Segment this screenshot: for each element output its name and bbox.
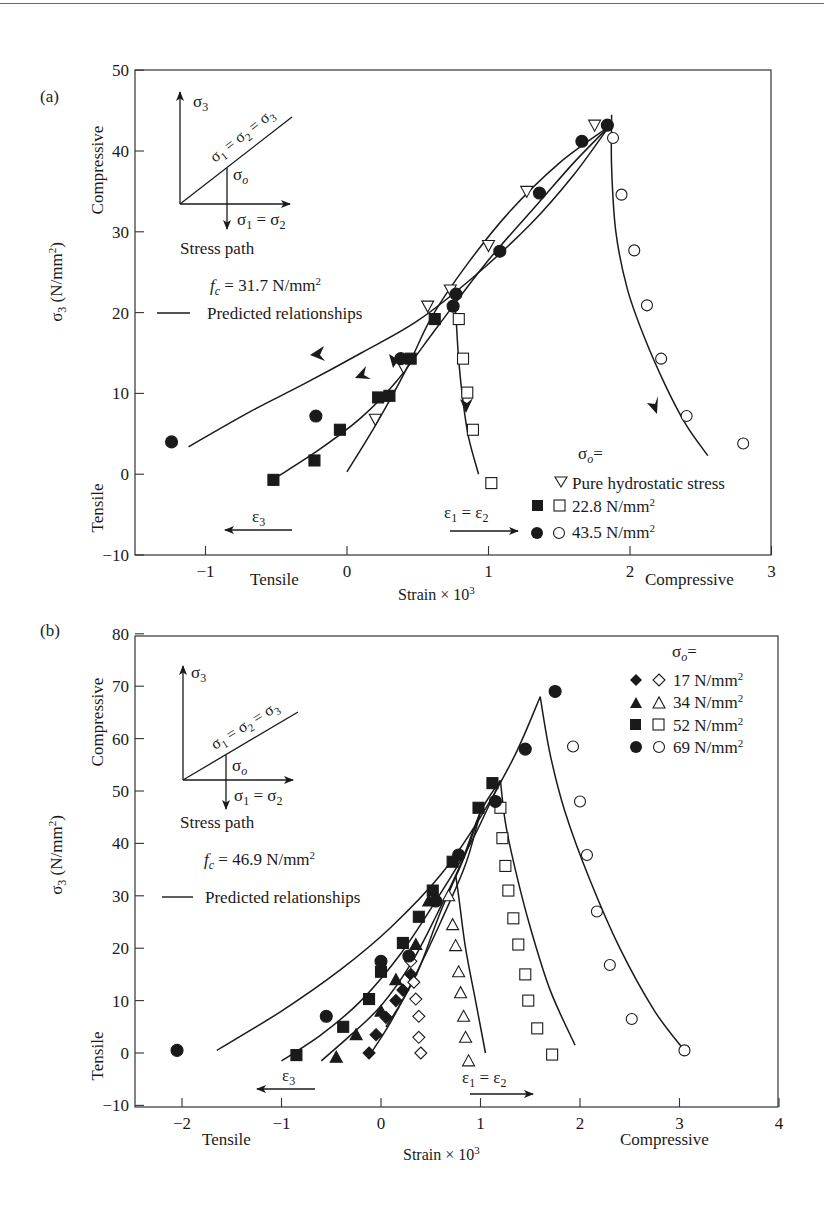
square-filled-marker	[413, 911, 424, 922]
triangle-down-open-marker	[483, 241, 495, 252]
legend-a-item-hydrostatic: Pure hydrostatic stress	[572, 474, 725, 493]
circle-open-marker	[575, 796, 586, 807]
inset-b-sigma-o: σo	[232, 756, 247, 778]
panel-a-x-axis-title: Strain × 103	[398, 584, 475, 603]
predicted-curve	[347, 127, 609, 472]
circle-open-marker	[641, 300, 652, 311]
legend-a-item-43-5: 43.5 N/mm2	[572, 522, 655, 542]
y-tick-label: 50	[112, 782, 129, 801]
y-tick-label: −10	[102, 1096, 129, 1115]
diamond-open-marker	[413, 1010, 425, 1022]
diamond-open-marker	[415, 1047, 427, 1059]
legend-b-square-filled-icon	[630, 719, 641, 730]
panel-a-x-tensile-label: Tensile	[250, 570, 299, 589]
legend-a-triangle-down-open-icon	[555, 477, 567, 487]
panel-b-label: (b)	[40, 621, 60, 640]
x-tick-label: −1	[272, 1114, 290, 1133]
inset-b-caption: Stress path	[180, 813, 255, 832]
triangle-open-marker	[453, 966, 465, 977]
y-tick-label: 20	[112, 939, 129, 958]
panel-b-y-tensile-label: Tensile	[88, 1032, 107, 1081]
square-filled-marker	[309, 455, 320, 466]
panel-a-fc: fc = 31.7 N/mm2	[210, 275, 321, 298]
circle-filled-marker	[489, 795, 501, 807]
square-open-marker	[508, 913, 519, 924]
circle-open-marker	[681, 411, 692, 422]
panel-a-y-compressive-label: Compressive	[88, 126, 107, 215]
inset-a-caption: Stress path	[180, 239, 255, 258]
triangle-down-open-marker	[589, 120, 601, 131]
y-tick-label: 40	[112, 834, 129, 853]
y-tick-label: 30	[112, 887, 129, 906]
circle-filled-marker	[395, 353, 407, 365]
panel-b-predicted-curves	[217, 697, 685, 1061]
x-tick-label: 2	[576, 1114, 585, 1133]
circle-open-marker	[679, 1045, 690, 1056]
circle-filled-marker	[430, 895, 442, 907]
circle-filled-marker	[494, 245, 506, 257]
legend-b-circle-filled-icon	[630, 741, 642, 753]
square-filled-marker	[473, 802, 484, 813]
legend-a-item-22-8: 22.8 N/mm2	[572, 496, 655, 516]
circle-open-marker	[581, 849, 592, 860]
square-filled-marker	[429, 314, 440, 325]
panel-b-x-compressive-label: Compressive	[620, 1130, 709, 1149]
legend-b-item-17: 17 N/mm2	[673, 670, 743, 690]
diamond-filled-marker	[397, 984, 409, 996]
x-tick-label: 1	[484, 562, 493, 581]
legend-b-diamond-filled-icon	[630, 674, 642, 686]
inset-b-hydrostatic-line-label: σ1 = σ2 = σ3	[208, 697, 284, 755]
panel-b-eps3-label: ε3	[282, 1066, 295, 1088]
square-open-marker	[467, 424, 478, 435]
legend-b-item-52: 52 N/mm2	[673, 715, 743, 735]
circle-open-marker	[656, 353, 667, 364]
circle-filled-marker	[450, 288, 462, 300]
inset-b-sigma12: σ1 = σ2	[234, 786, 282, 808]
predicted-curve	[611, 115, 708, 456]
panel-a-predicted-curves	[189, 115, 708, 478]
circle-filled-marker	[310, 410, 322, 422]
legend-a-circle-open-icon	[554, 528, 565, 539]
circle-open-marker	[591, 906, 602, 917]
x-tick-label: 1	[476, 1114, 485, 1133]
triangle-open-marker	[460, 1031, 472, 1042]
panel-b-x-axis-title: Strain × 103	[403, 1144, 480, 1163]
panel-b-x-axis: −2−101234	[173, 1098, 784, 1133]
circle-filled-marker	[453, 849, 465, 861]
square-filled-marker	[364, 994, 375, 1005]
circle-filled-marker	[447, 300, 459, 312]
panel-a-label: (a)	[40, 87, 59, 106]
square-filled-marker	[268, 474, 279, 485]
legend-a-square-filled-icon	[532, 500, 543, 511]
square-open-marker	[462, 387, 473, 398]
square-open-marker	[513, 939, 524, 950]
triangle-filled-marker	[410, 939, 422, 950]
circle-filled-marker	[601, 119, 613, 131]
square-filled-marker	[373, 392, 384, 403]
y-tick-label: 50	[112, 61, 129, 80]
legend-b-square-open-icon	[653, 719, 664, 730]
x-tick-label: 0	[343, 562, 352, 581]
predicted-curve	[456, 875, 486, 1053]
panel-b-y-axis: −1001020304050607080	[102, 625, 144, 1116]
inset-b-sigma3: σ3	[191, 663, 206, 685]
panel-a-predicted-legend-label: Predicted relationships	[207, 304, 362, 323]
legend-a-title: σo=	[578, 444, 603, 466]
panel-a-y-tensile-label: Tensile	[88, 484, 107, 533]
circle-filled-marker	[533, 187, 545, 199]
square-open-marker	[503, 885, 514, 896]
predicted-curve	[321, 781, 500, 1061]
circle-filled-marker	[171, 1044, 183, 1056]
panel-a-x-compressive-label: Compressive	[645, 570, 734, 589]
x-tick-label: −2	[173, 1114, 191, 1133]
inset-a-sigma-o: σo	[233, 165, 248, 187]
square-open-marker	[547, 1049, 558, 1060]
panel-a-y-axis: −1001020304050	[102, 61, 144, 565]
square-filled-marker	[376, 966, 387, 977]
square-open-marker	[500, 860, 511, 871]
triangle-open-marker	[450, 940, 462, 951]
circle-open-marker	[568, 741, 579, 752]
triangle-open-marker	[463, 1055, 475, 1066]
diamond-open-marker	[413, 1031, 425, 1043]
triangle-down-open-marker	[521, 186, 533, 197]
